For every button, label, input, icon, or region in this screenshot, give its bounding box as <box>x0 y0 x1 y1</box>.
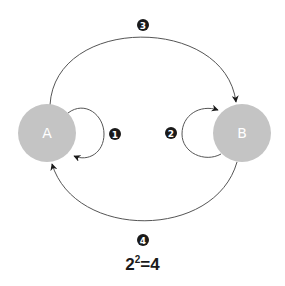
edge-4-arc <box>52 162 237 221</box>
svg-text:2: 2 <box>168 129 174 139</box>
state-diagram: A B 1 2 3 4 <box>0 0 285 286</box>
formula-result: 4 <box>150 255 159 274</box>
formula-equals: = <box>140 255 150 274</box>
node-b: B <box>213 104 271 162</box>
badge-2: 2 <box>165 127 177 139</box>
node-b-label: B <box>237 125 247 141</box>
formula-base: 2 <box>125 255 134 274</box>
node-a-label: A <box>42 125 52 141</box>
node-a: A <box>18 104 76 162</box>
badge-3: 3 <box>137 19 149 31</box>
svg-text:3: 3 <box>140 21 146 31</box>
badge-4: 4 <box>137 234 149 246</box>
edge-3-arc <box>50 37 236 105</box>
formula: 22=4 <box>0 254 285 275</box>
svg-text:4: 4 <box>140 236 146 246</box>
svg-text:1: 1 <box>112 130 118 140</box>
badge-1: 1 <box>109 128 121 140</box>
